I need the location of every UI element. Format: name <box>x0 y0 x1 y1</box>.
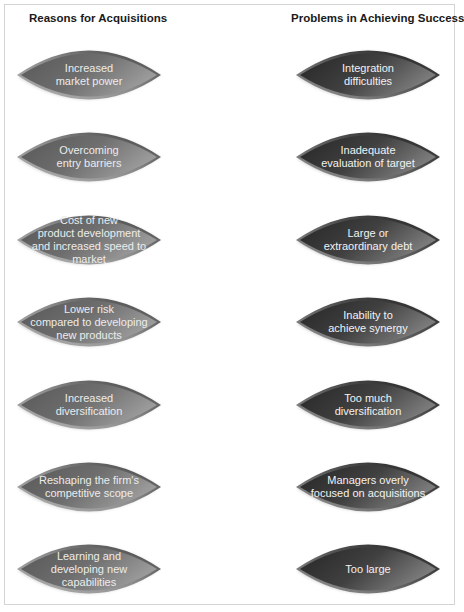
problems-column: Integration difficulties Inadequate eval… <box>293 0 443 612</box>
oval-label: Reshaping the firm's competitive scope <box>14 453 164 521</box>
oval-label: Large or extraordinary debt <box>293 206 443 274</box>
reason-oval-learning-new-capabilities: Learning and developing new capabilities <box>14 535 164 603</box>
problem-oval-too-large: Too large <box>293 535 443 603</box>
problem-oval-inadequate-evaluation: Inadequate evaluation of target <box>293 123 443 191</box>
reason-oval-reshaping-competitive-scope: Reshaping the firm's competitive scope <box>14 453 164 521</box>
problem-oval-too-much-diversification: Too much diversification <box>293 371 443 439</box>
reason-oval-overcoming-entry-barriers: Overcoming entry barriers <box>14 123 164 191</box>
problem-oval-integration-difficulties: Integration difficulties <box>293 41 443 109</box>
oval-label: Inability to achieve synergy <box>293 288 443 356</box>
oval-label: Inadequate evaluation of target <box>293 123 443 191</box>
oval-label: Too much diversification <box>293 371 443 439</box>
oval-label: Learning and developing new capabilities <box>14 535 164 603</box>
oval-label: Integration difficulties <box>293 41 443 109</box>
oval-label: Overcoming entry barriers <box>14 123 164 191</box>
oval-label: Increased diversification <box>14 371 164 439</box>
reason-oval-lower-risk: Lower risk compared to developing new pr… <box>14 288 164 356</box>
oval-label: Managers overly focused on acquisitions <box>293 453 443 521</box>
reasons-column: Increased market power Overcoming entry … <box>14 0 164 612</box>
reason-oval-increased-diversification: Increased diversification <box>14 371 164 439</box>
reason-oval-cost-of-new-product-development: Cost of new product development and incr… <box>14 206 164 274</box>
oval-label: Too large <box>293 535 443 603</box>
problem-oval-inability-synergy: Inability to achieve synergy <box>293 288 443 356</box>
problem-oval-large-debt: Large or extraordinary debt <box>293 206 443 274</box>
oval-label: Cost of new product development and incr… <box>14 206 164 274</box>
problem-oval-managers-focused-on-acquisitions: Managers overly focused on acquisitions <box>293 453 443 521</box>
oval-label: Increased market power <box>14 41 164 109</box>
oval-label: Lower risk compared to developing new pr… <box>14 288 164 356</box>
reason-oval-increased-market-power: Increased market power <box>14 41 164 109</box>
